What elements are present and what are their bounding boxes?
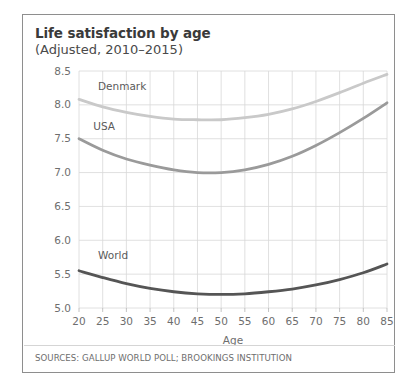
x-tick-label: 55 bbox=[238, 315, 251, 327]
series-label-denmark: Denmark bbox=[98, 80, 147, 92]
y-tick-label: 5.0 bbox=[54, 302, 71, 314]
y-gridlines bbox=[79, 71, 387, 308]
x-tick-label: 75 bbox=[333, 315, 346, 327]
data-series-group bbox=[79, 74, 387, 294]
x-tick-label: 70 bbox=[309, 315, 322, 327]
page-title: Life satisfaction by age bbox=[35, 25, 211, 41]
series-line-world bbox=[79, 264, 387, 294]
x-tick-label: 50 bbox=[214, 315, 227, 327]
x-tick-label: 65 bbox=[286, 315, 299, 327]
y-tick-label: 6.5 bbox=[54, 200, 71, 212]
y-tick-label: 8.0 bbox=[54, 98, 71, 110]
x-tick-label: 40 bbox=[167, 315, 180, 327]
x-tick-label: 20 bbox=[72, 315, 85, 327]
series-label-usa: USA bbox=[93, 120, 116, 132]
x-tick-label: 85 bbox=[380, 315, 393, 327]
x-tick-labels: 2025303540455055606570758085 bbox=[72, 315, 393, 327]
x-tick-label: 35 bbox=[143, 315, 156, 327]
x-tick-label: 45 bbox=[191, 315, 204, 327]
y-tick-label: 6.0 bbox=[54, 234, 71, 246]
x-tick-label: 60 bbox=[262, 315, 275, 327]
x-tickmarks bbox=[79, 308, 387, 312]
y-tick-labels: 5.05.56.06.57.07.58.08.5 bbox=[54, 65, 71, 314]
footer-divider bbox=[24, 345, 395, 346]
chart-card: Life satisfaction by age (Adjusted, 2010… bbox=[22, 14, 395, 373]
y-tick-label: 5.5 bbox=[54, 268, 71, 280]
x-tick-label: 25 bbox=[96, 315, 109, 327]
x-tick-label: 30 bbox=[120, 315, 133, 327]
x-gridlines bbox=[79, 71, 387, 308]
x-tick-label: 80 bbox=[357, 315, 370, 327]
line-chart-svg: 5.05.56.06.57.07.58.08.5 202530354045505… bbox=[23, 61, 394, 346]
y-tick-label: 8.5 bbox=[54, 65, 71, 77]
chart-plot-area: 5.05.56.06.57.07.58.08.5 202530354045505… bbox=[23, 61, 394, 346]
y-tick-label: 7.5 bbox=[54, 132, 71, 144]
source-note: SOURCES: GALLUP WORLD POLL; BROOKINGS IN… bbox=[35, 353, 292, 363]
series-label-world: World bbox=[98, 249, 128, 261]
y-tick-label: 7.0 bbox=[54, 166, 71, 178]
chart-subtitle: (Adjusted, 2010–2015) bbox=[35, 42, 183, 57]
